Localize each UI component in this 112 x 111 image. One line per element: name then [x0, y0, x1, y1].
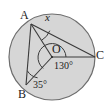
- center-point-dot: [51, 56, 53, 58]
- label-point-o: O: [52, 43, 61, 55]
- label-point-c: C: [96, 49, 104, 61]
- geometry-figure: A B C O x 130° 35°: [0, 0, 112, 111]
- label-point-b: B: [18, 88, 26, 100]
- label-angle-at-b-35: 35°: [33, 80, 47, 90]
- label-unknown-angle-x: x: [45, 12, 50, 23]
- label-central-angle-130: 130°: [54, 61, 73, 71]
- label-point-a: A: [20, 9, 29, 21]
